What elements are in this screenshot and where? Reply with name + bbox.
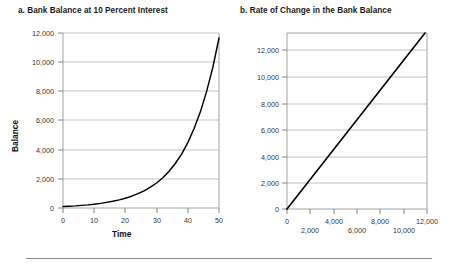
panel-a-xtick-label: 0 [55,216,71,225]
panel-b-ytick-label: 4,000 [239,153,279,162]
panel-a-ytick-marks [58,33,63,208]
panel-a-ytick-label: 12,000 [18,29,54,38]
panel-b-xtick-label: 8,000 [367,217,393,226]
figure-divider-rule [26,258,432,259]
panel-a-xtick-label: 30 [149,216,165,225]
panel-b-ytick-label: 8,000 [239,100,279,109]
panel-b-xtick-label: 10,000 [388,226,420,235]
panel-a-ytick-label: 6,000 [18,116,54,125]
panel-a-xtick-marks [63,208,219,213]
panel-b-xtick-marks [287,209,427,214]
chart-panel-b: b. Rate of Change in the Bank Balance [229,0,458,250]
panel-a-xtick-label: 10 [86,216,102,225]
panel-a-ytick-label: 10,000 [18,58,54,67]
panel-b-xtick-label: 4,000 [321,217,347,226]
panel-a-x-axis-title: Time [112,229,131,239]
panel-a-xtick-label: 20 [117,216,133,225]
panel-a-xtick-label: 40 [180,216,196,225]
panel-b-ytick-label: 0 [239,205,279,214]
panel-b-ytick-marks [282,50,287,209]
panel-b-ytick-label: 2,000 [239,179,279,188]
panel-a-frame [63,33,219,208]
panel-b-ytick-label: 10,000 [239,73,279,82]
panel-b-ytick-label: 12,000 [239,46,279,55]
panel-a-y-axis-title: Balance [10,120,20,152]
panel-b-xtick-label: 6,000 [344,226,370,235]
panel-b-xtick-label: 2,000 [297,226,323,235]
panel-a-ytick-label: 2,000 [18,175,54,184]
panel-a-ytick-label: 8,000 [18,87,54,96]
panel-a-xtick-label: 50 [211,216,227,225]
panel-b-gridlines [287,50,427,183]
panel-a-ytick-label: 0 [18,204,54,213]
panel-a-ytick-label: 4,000 [18,146,54,155]
chart-panel-a: a. Bank Balance at 10 Percent Interest [0,0,229,250]
figure-container: a. Bank Balance at 10 Percent Interest [0,0,458,269]
panel-b-xtick-label: 0 [277,217,297,226]
panel-a-curve [63,38,219,207]
panel-a-gridlines [63,33,219,179]
panel-b-ytick-label: 6,000 [239,126,279,135]
panel-b-xtick-label: 12,000 [412,217,442,226]
